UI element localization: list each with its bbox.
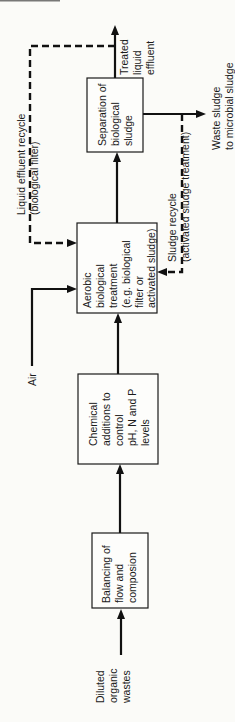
output-waste-sludge-label: Waste sludge to microbial sludge bbox=[210, 62, 235, 150]
arrow-into-chemical bbox=[116, 464, 124, 474]
svg-text:biological: biological bbox=[94, 264, 106, 308]
svg-text:(activated sludge treatment): (activated sludge treatment) bbox=[179, 132, 191, 262]
svg-text:Sludge recycle: Sludge recycle bbox=[166, 193, 178, 262]
svg-text:effluent: effluent bbox=[144, 41, 156, 75]
header-remnant bbox=[0, 0, 60, 2]
svg-text:filter or: filter or bbox=[133, 275, 145, 308]
svg-text:additions to: additions to bbox=[100, 392, 112, 446]
svg-text:liquid: liquid bbox=[131, 50, 143, 75]
arrow-waste-sludge bbox=[196, 110, 206, 118]
svg-text:(biological filter): (biological filter) bbox=[28, 141, 40, 215]
svg-text:Separation of: Separation of bbox=[96, 83, 108, 146]
svg-text:composion: composion bbox=[126, 552, 138, 603]
process-flow-diagram: Separation of biological sludge Aerobic … bbox=[0, 0, 235, 722]
svg-text:Liquid effluent recycle: Liquid effluent recycle bbox=[15, 113, 27, 215]
svg-text:activated sludge): activated sludge) bbox=[145, 229, 157, 308]
sludge-recycle-label: Sludge recycle (activated sludge treatme… bbox=[166, 132, 191, 262]
svg-text:Aerobic: Aerobic bbox=[81, 272, 93, 308]
arrow-into-balancing bbox=[117, 609, 125, 619]
input-diluted-wastes-label: Diluted organic wastes bbox=[94, 669, 132, 704]
svg-text:control: control bbox=[113, 414, 125, 446]
arrow-air-into-aerobic bbox=[67, 285, 77, 293]
svg-text:Diluted: Diluted bbox=[94, 670, 106, 703]
arrow-into-aerobic-bottom bbox=[114, 313, 122, 323]
input-air-label: Air bbox=[26, 373, 38, 386]
svg-text:wastes: wastes bbox=[120, 670, 132, 704]
svg-text:biological: biological bbox=[109, 102, 121, 146]
arrow-treated-effluent bbox=[111, 25, 119, 35]
svg-text:Waste sludge: Waste sludge bbox=[210, 87, 222, 150]
svg-text:Chemical: Chemical bbox=[87, 402, 99, 446]
arrow-liquid-recycle-into-aerobic bbox=[67, 239, 77, 247]
svg-text:Treated: Treated bbox=[118, 39, 130, 75]
svg-text:organic: organic bbox=[107, 669, 119, 703]
svg-text:flow and: flow and bbox=[113, 564, 125, 603]
output-treated-effluent-label: Treated liquid effluent bbox=[118, 39, 156, 75]
arrow-sludge-recycle-into-aerobic bbox=[157, 268, 167, 276]
svg-text:Balancing of: Balancing of bbox=[100, 545, 112, 603]
svg-text:pH, N and P: pH, N and P bbox=[126, 389, 138, 446]
edge-air-to-aerobic bbox=[32, 289, 69, 366]
svg-text:(e.g. biological: (e.g. biological bbox=[120, 240, 132, 308]
svg-text:Air: Air bbox=[26, 373, 38, 386]
svg-text:levels: levels bbox=[139, 419, 151, 446]
arrow-into-separation bbox=[113, 152, 121, 162]
svg-text:sludge: sludge bbox=[122, 115, 134, 146]
svg-text:to microbial sludge: to microbial sludge bbox=[223, 62, 235, 150]
svg-text:treatment: treatment bbox=[107, 264, 119, 308]
liquid-recycle-label: Liquid effluent recycle (biological filt… bbox=[15, 113, 40, 215]
